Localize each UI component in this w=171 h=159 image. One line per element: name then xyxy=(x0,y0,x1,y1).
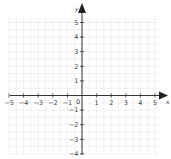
y-tick-label: 1 xyxy=(74,77,78,85)
origin-label: 0 xyxy=(76,98,80,106)
x-tick-label: −1 xyxy=(63,99,73,107)
grid-lines xyxy=(9,18,158,154)
x-tick-label: 5 xyxy=(153,99,157,107)
y-tick-label: −3 xyxy=(69,136,79,144)
y-tick-label: 3 xyxy=(74,48,78,56)
y-tick-label: 5 xyxy=(74,19,78,27)
y-tick-label: −2 xyxy=(69,121,79,129)
y-axis-label: y xyxy=(74,5,79,13)
x-tick-label: −2 xyxy=(48,99,58,107)
y-tick-label: −4 xyxy=(69,150,79,158)
tick-labels: −5−4−3−2−112345−4−3−2−112345 xyxy=(4,19,157,158)
y-axis-arrow-icon xyxy=(78,3,86,13)
x-tick-label: 1 xyxy=(95,99,99,107)
x-tick-label: 3 xyxy=(124,99,128,107)
y-tick-label: −1 xyxy=(69,106,79,114)
x-tick-label: −3 xyxy=(33,99,43,107)
x-tick-label: −4 xyxy=(19,99,29,107)
y-tick-label: 4 xyxy=(74,33,78,41)
y-tick-label: 2 xyxy=(74,63,78,71)
x-tick-label: −5 xyxy=(4,99,14,107)
x-axis-label: x xyxy=(165,98,170,105)
x-tick-label: 2 xyxy=(109,99,113,107)
x-tick-label: 4 xyxy=(138,99,142,107)
coordinate-plane: −5−4−3−2−112345−4−3−2−112345 x y 0 xyxy=(0,0,171,159)
